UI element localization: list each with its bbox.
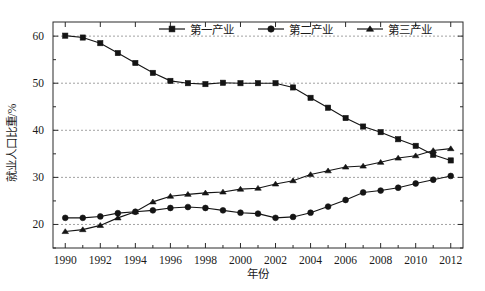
square-marker — [361, 124, 366, 129]
square-marker — [115, 50, 120, 55]
square-marker — [150, 70, 155, 75]
square-marker — [220, 80, 225, 85]
y-tick-label: 30 — [33, 171, 45, 183]
circle-marker — [220, 207, 226, 213]
square-marker — [80, 35, 85, 40]
x-tick-label: 1998 — [194, 254, 217, 266]
circle-marker — [413, 181, 419, 187]
series-path — [65, 36, 450, 161]
data-series — [62, 33, 454, 233]
circle-marker — [203, 205, 209, 211]
circle-marker — [395, 185, 401, 191]
square-marker — [378, 130, 383, 135]
circle-marker — [80, 215, 86, 221]
circle-marker — [97, 214, 103, 220]
series-3 — [62, 146, 454, 234]
circle-marker — [238, 210, 244, 216]
x-tick-label: 2004 — [299, 254, 322, 266]
circle-marker — [378, 188, 384, 194]
square-marker — [448, 158, 453, 163]
square-marker — [238, 81, 243, 86]
circle-marker — [273, 215, 279, 221]
circle-marker — [167, 205, 173, 211]
circle-marker — [325, 204, 331, 210]
legend-item-3[interactable]: 第三产业 — [357, 23, 432, 36]
series-1 — [63, 33, 454, 163]
square-marker — [98, 41, 103, 46]
y-tick-label: 40 — [33, 124, 45, 136]
legend-item-2[interactable]: 第二产业 — [258, 23, 333, 36]
square-marker — [255, 81, 260, 86]
grid-lines — [53, 36, 463, 224]
y-tick-label: 20 — [33, 218, 45, 230]
square-marker — [203, 82, 208, 87]
legend-label: 第二产业 — [289, 23, 333, 36]
x-tick-label: 2012 — [439, 254, 462, 266]
circle-marker — [290, 214, 296, 220]
circle-marker — [185, 204, 191, 210]
circle-marker — [150, 207, 156, 213]
y-axis-tick-labels: 2030405060 — [33, 30, 45, 230]
square-marker — [413, 143, 418, 148]
x-tick-label: 2006 — [334, 254, 357, 266]
circle-marker — [343, 197, 349, 203]
legend-label: 第一产业 — [190, 23, 234, 36]
series-2 — [62, 173, 453, 221]
square-marker — [169, 26, 175, 32]
square-marker — [343, 115, 348, 120]
square-marker — [133, 60, 138, 65]
x-tick-label: 2000 — [229, 254, 252, 266]
square-marker — [396, 137, 401, 142]
x-tick-label: 1996 — [159, 254, 182, 266]
circle-marker — [62, 215, 68, 221]
circle-marker — [430, 177, 436, 183]
square-marker — [273, 81, 278, 86]
x-tick-label: 1994 — [124, 254, 147, 266]
square-marker — [185, 81, 190, 86]
x-tick-label: 2002 — [264, 254, 287, 266]
x-tick-label: 2008 — [369, 254, 392, 266]
square-marker — [431, 152, 436, 157]
triangle-marker — [447, 146, 454, 151]
circle-marker — [255, 211, 261, 217]
y-tick-label: 50 — [33, 77, 45, 89]
chart-container: 1990199219941996199820002002200420062008… — [0, 0, 485, 291]
line-chart: 1990199219941996199820002002200420062008… — [0, 0, 485, 291]
x-tick-label: 2010 — [404, 254, 427, 266]
square-marker — [63, 33, 68, 38]
square-marker — [168, 78, 173, 83]
y-tick-label: 60 — [33, 30, 45, 42]
circle-marker — [360, 190, 366, 196]
chart-legend: 第一产业第二产业第三产业 — [159, 23, 432, 36]
x-tick-label: 1992 — [89, 254, 112, 266]
circle-marker — [268, 26, 274, 32]
x-tick-label: 1990 — [54, 254, 77, 266]
circle-marker — [308, 210, 314, 216]
x-axis-tick-labels: 1990199219941996199820002002200420062008… — [54, 254, 463, 266]
circle-marker — [448, 173, 454, 179]
y-axis-title: 就业人口比重/% — [5, 103, 18, 182]
square-marker — [325, 105, 330, 110]
square-marker — [290, 85, 295, 90]
legend-label: 第三产业 — [388, 23, 432, 36]
square-marker — [308, 95, 313, 100]
x-axis-title: 年份 — [247, 267, 270, 280]
